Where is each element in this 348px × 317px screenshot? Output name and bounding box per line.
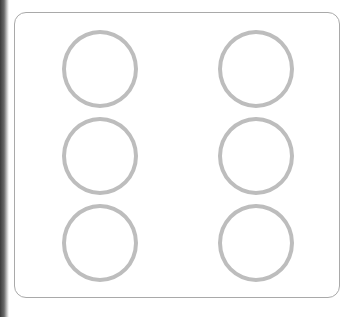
page-edge-shadow	[0, 0, 9, 317]
ring-row3-col2	[218, 204, 294, 282]
ring-row2-col1	[62, 117, 138, 195]
ring-row3-col1	[62, 204, 138, 282]
ring-row2-col2	[218, 117, 294, 195]
ring-row1-col1	[62, 30, 138, 108]
ring-row1-col2	[218, 30, 294, 108]
